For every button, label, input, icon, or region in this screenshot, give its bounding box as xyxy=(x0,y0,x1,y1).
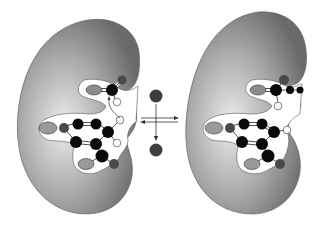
atom-black xyxy=(268,126,280,138)
atom-white xyxy=(113,139,121,147)
enzyme-equilibrium-diagram xyxy=(0,0,322,231)
atom-gray-ellipse xyxy=(205,122,223,134)
atom-white xyxy=(113,98,121,106)
atom-white xyxy=(116,116,124,124)
equilibrium-arrows xyxy=(140,90,179,157)
atom-black xyxy=(73,119,84,130)
atom-dark-gray xyxy=(279,75,289,85)
forward-arrowhead xyxy=(174,116,179,120)
atom-black xyxy=(256,138,268,150)
atom-gray-ellipse xyxy=(86,85,102,95)
reverse-arrowhead xyxy=(140,120,145,124)
diagram-canvas xyxy=(0,0,322,231)
atom-black xyxy=(90,138,102,150)
enzyme-right xyxy=(186,12,307,214)
atom-dark-gray xyxy=(109,159,119,169)
atom-dark-gray xyxy=(225,123,235,133)
leaving-group-ball-bottom xyxy=(150,144,163,157)
atom-black xyxy=(70,136,82,148)
atom-black xyxy=(262,150,275,163)
atom-black xyxy=(239,119,250,130)
atom-gray-ellipse xyxy=(244,159,260,170)
atom-gray-ellipse xyxy=(78,159,94,170)
vertical-arrowhead xyxy=(154,136,158,141)
leaving-group-ball-top xyxy=(150,90,163,103)
enzyme-left xyxy=(17,19,139,214)
atom-black xyxy=(286,86,294,94)
atom-black xyxy=(270,84,282,96)
atom-black xyxy=(257,119,268,130)
atom-black xyxy=(106,84,118,96)
atom-black xyxy=(297,87,304,94)
atom-dark-gray xyxy=(59,123,69,133)
atom-black xyxy=(102,126,114,138)
atom-dark-gray xyxy=(118,76,127,85)
atom-black xyxy=(96,150,109,163)
atom-gray-ellipse xyxy=(250,85,266,95)
atom-black xyxy=(236,136,248,148)
atom-dark-gray xyxy=(275,159,285,169)
atom-black xyxy=(91,119,102,130)
atom-white xyxy=(274,102,282,110)
atom-white xyxy=(283,126,291,134)
atom-gray-ellipse xyxy=(39,122,57,134)
